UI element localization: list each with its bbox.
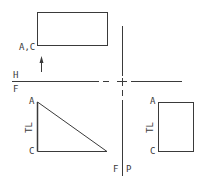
fold-label-f-horizontal: F bbox=[13, 84, 18, 94]
fold-label-h: H bbox=[13, 70, 18, 80]
arrow-up-icon bbox=[40, 56, 44, 72]
front-view-label-c: C bbox=[29, 146, 34, 156]
profile-view-label-a: A bbox=[150, 96, 156, 106]
profile-view-label-c: C bbox=[150, 146, 155, 156]
fold-label-p: P bbox=[126, 164, 132, 174]
fold-label-f-vertical: F bbox=[113, 164, 118, 174]
profile-view-rectangle bbox=[159, 103, 194, 152]
front-view-triangle bbox=[38, 102, 108, 152]
top-view-rectangle bbox=[38, 13, 108, 46]
front-view-tl-label: TL bbox=[24, 122, 34, 133]
top-view-point-label: A,C bbox=[19, 42, 35, 52]
projection-diagram: A,C H F F P A C T bbox=[0, 0, 207, 181]
front-view-label-a: A bbox=[29, 96, 35, 106]
profile-view-tl-label: TL bbox=[145, 122, 155, 133]
